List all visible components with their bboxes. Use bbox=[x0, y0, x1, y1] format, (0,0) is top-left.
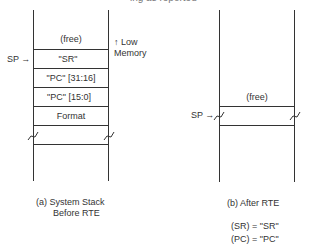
stack-a-free-cell: (free) bbox=[33, 34, 109, 44]
stack-a-divider bbox=[33, 87, 109, 88]
stack-a-divider bbox=[33, 49, 109, 50]
caption-a-line2: Before RTE bbox=[53, 208, 100, 218]
stack-a-divider bbox=[33, 68, 109, 69]
stack-b-divider bbox=[219, 106, 295, 107]
stack-a-divider bbox=[33, 106, 109, 107]
stack-b-divider bbox=[219, 125, 295, 126]
stack-a-pc-high-cell: "PC" [31:16] bbox=[33, 73, 109, 83]
break-mark-icon bbox=[102, 130, 116, 142]
caption-b: (b) After RTE bbox=[227, 198, 279, 208]
stack-a-pc-low-cell: "PC" [15:0] bbox=[33, 92, 105, 102]
stack-b-sp-pointer: SP → bbox=[191, 110, 214, 120]
result-sr: (SR) = "SR" bbox=[231, 221, 279, 231]
caption-a-line1: (a) System Stack bbox=[36, 197, 105, 207]
clipped-heading-text: ing as reported bbox=[130, 0, 197, 3]
break-mark-icon bbox=[288, 110, 302, 122]
result-pc: (PC) = "PC" bbox=[231, 234, 279, 244]
stack-b-free-cell: (free) bbox=[219, 92, 295, 102]
low-memory-note-line2: Memory bbox=[114, 48, 147, 58]
stack-a-divider bbox=[33, 125, 109, 126]
stack-a-sp-pointer: SP → bbox=[7, 54, 30, 64]
stack-a-divider bbox=[33, 144, 109, 145]
stack-a-format-cell: Format bbox=[33, 111, 109, 121]
stack-a-sr-cell: "SR" bbox=[33, 54, 103, 64]
low-memory-note-line1: ↑ Low bbox=[114, 37, 138, 47]
break-mark-icon bbox=[26, 130, 40, 142]
